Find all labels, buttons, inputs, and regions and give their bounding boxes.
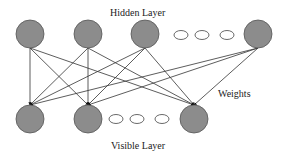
visible-node-1: [74, 105, 102, 133]
hidden-ellipsis-dot-2: [220, 31, 234, 40]
weights-label: Weights: [218, 88, 251, 99]
hidden-ellipsis-dot-0: [174, 31, 188, 40]
visible-ellipsis-dot-0: [109, 115, 123, 124]
hidden-ellipsis-dot-1: [195, 31, 209, 40]
weight-edge-h1-v2: [88, 48, 194, 105]
visible-node-0: [16, 105, 44, 133]
hidden-node-1: [74, 20, 102, 48]
hidden-node-2: [131, 20, 159, 48]
rbm-diagram: [0, 0, 288, 154]
visible-layer-nodes: [16, 105, 208, 133]
weight-edge-h2-v1: [88, 48, 145, 105]
visible-ellipsis-dot-2: [155, 115, 169, 124]
visible-node-2: [180, 105, 208, 133]
hidden-layer-label: Hidden Layer: [110, 7, 165, 18]
weight-edge-h2-v0: [30, 48, 145, 105]
visible-ellipsis-dot-1: [130, 115, 144, 124]
hidden-layer-nodes: [16, 20, 272, 48]
visible-layer-label: Visible Layer: [111, 140, 165, 151]
hidden-node-0: [16, 20, 44, 48]
hidden-node-3: [244, 20, 272, 48]
